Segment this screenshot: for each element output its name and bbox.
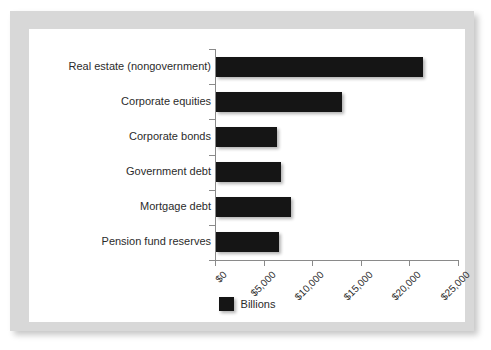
plot-area: $0$5,000$10,000$15,000$20,000$25,000	[215, 49, 458, 277]
chart-panel: Real estate (nongovernment)Corporate equ…	[29, 29, 465, 322]
x-axis-line	[215, 260, 458, 261]
category-label: Real estate (nongovernment)	[69, 60, 211, 72]
category-label: Corporate equities	[121, 95, 211, 107]
x-axis-tick	[458, 260, 459, 266]
x-axis-tick	[312, 260, 313, 266]
category-label: Government debt	[126, 165, 211, 177]
figure-frame: Real estate (nongovernment)Corporate equ…	[10, 11, 474, 331]
x-axis-tick	[361, 260, 362, 266]
bar	[216, 127, 277, 147]
y-axis-tick	[209, 119, 215, 120]
chart-legend: Billions	[29, 297, 465, 315]
category-label: Corporate bonds	[129, 130, 211, 142]
category-label: Pension fund reserves	[102, 235, 211, 247]
x-axis-tick	[409, 260, 410, 266]
bar	[216, 162, 281, 182]
y-axis-line	[215, 49, 216, 260]
y-axis-tick	[209, 84, 215, 85]
x-axis-tick	[215, 260, 216, 266]
category-label: Mortgage debt	[140, 200, 211, 212]
legend-label-billions: Billions	[241, 298, 276, 310]
category-axis-labels: Real estate (nongovernment)Corporate equ…	[29, 49, 211, 260]
y-axis-tick	[209, 190, 215, 191]
bar	[216, 57, 423, 77]
legend-swatch-billions	[219, 297, 234, 311]
bar	[216, 232, 279, 252]
x-axis-tick	[264, 260, 265, 266]
bar	[216, 197, 291, 217]
y-axis-tick	[209, 225, 215, 226]
scan-artifact-text: .. .	[62, 0, 98, 3]
bar	[216, 92, 342, 112]
y-axis-tick	[209, 155, 215, 156]
y-axis-tick	[209, 49, 215, 50]
